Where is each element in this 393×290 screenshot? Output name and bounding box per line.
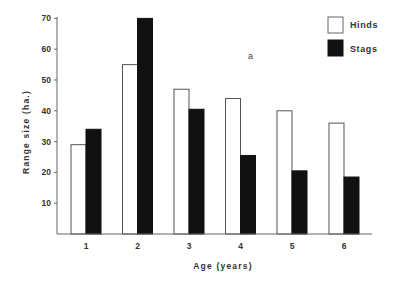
x-tick-label: 5 — [290, 241, 295, 251]
y-tick-label: 40 — [42, 106, 52, 116]
x-tick-label: 4 — [238, 241, 243, 251]
y-tick-label: 60 — [42, 44, 52, 54]
bar-stags-age-5 — [292, 171, 307, 234]
bar-stags-age-6 — [344, 177, 359, 234]
x-tick-label: 3 — [187, 241, 192, 251]
x-axis-title: Age (years) — [193, 261, 253, 271]
y-tick-label: 30 — [42, 137, 52, 147]
range-size-bar-chart: 10203040506070 123456 Range size (ha.) A… — [0, 0, 393, 290]
bar-hinds-age-5 — [277, 111, 292, 234]
y-axis-ticks: 10203040506070 — [42, 13, 57, 208]
y-tick-label: 50 — [42, 75, 52, 85]
x-axis-ticks: 123456 — [84, 241, 347, 251]
bar-hinds-age-6 — [329, 123, 344, 234]
panel-annotation: a — [248, 51, 253, 61]
bar-stags-age-2 — [138, 18, 153, 234]
bar-hinds-age-4 — [226, 98, 241, 234]
bar-hinds-age-1 — [71, 145, 86, 234]
bar-stags-age-1 — [86, 129, 101, 234]
y-tick-label: 10 — [42, 198, 52, 208]
bars — [71, 18, 359, 234]
legend-swatch-hinds — [328, 17, 343, 33]
legend: Hinds Stags — [328, 17, 378, 56]
x-tick-label: 6 — [342, 241, 347, 251]
bar-hinds-age-2 — [123, 65, 138, 234]
x-tick-label: 2 — [135, 241, 140, 251]
bar-hinds-age-3 — [174, 89, 189, 234]
bar-stags-age-4 — [241, 155, 256, 234]
legend-swatch-stags — [328, 40, 343, 56]
legend-label-hinds: Hinds — [350, 20, 378, 30]
legend-label-stags: Stags — [350, 44, 378, 54]
y-tick-label: 70 — [42, 13, 52, 23]
y-tick-label: 20 — [42, 167, 52, 177]
bar-stags-age-3 — [189, 109, 204, 234]
y-axis-title: Range size (ha.) — [21, 90, 31, 174]
x-tick-label: 1 — [84, 241, 89, 251]
